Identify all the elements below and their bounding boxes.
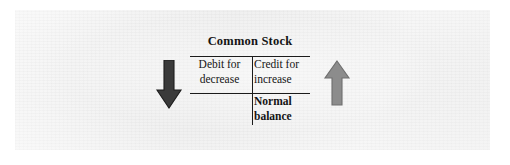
debit-label-line2: decrease (190, 72, 249, 87)
t-account: Common Stock Debit for decrease Credit f… (190, 34, 310, 129)
debit-cell: Debit for decrease (190, 57, 249, 86)
increase-arrow-up-icon (323, 60, 351, 111)
credit-cell: Credit for increase (254, 57, 310, 86)
t-account-vertical-divider (252, 56, 253, 125)
account-title: Common Stock (190, 34, 310, 49)
normal-balance-cell: Normal balance (254, 94, 310, 123)
normal-balance-line2: balance (254, 109, 310, 124)
credit-label-line1: Credit for (254, 57, 310, 72)
debit-label-line1: Debit for (190, 57, 249, 72)
figure-canvas: Common Stock Debit for decrease Credit f… (0, 0, 510, 165)
normal-balance-line1: Normal (254, 94, 310, 109)
credit-label-line2: increase (254, 72, 310, 87)
decrease-arrow-down-icon (155, 60, 183, 114)
